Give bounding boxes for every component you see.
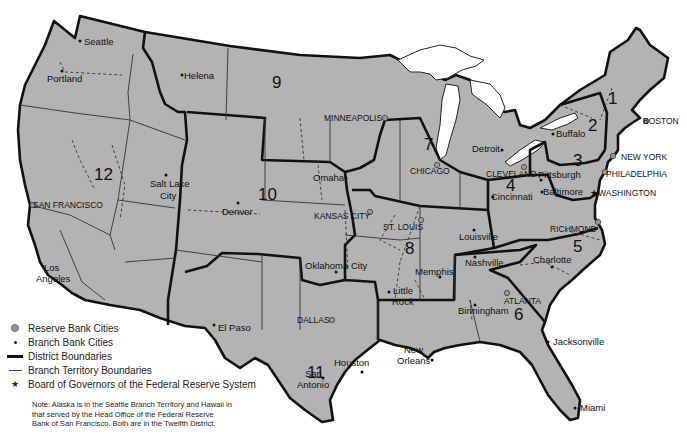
- legend-item-branch-bank-cities: Branch Bank Cities: [6, 335, 306, 349]
- city-chicago: CHICAGO: [410, 166, 450, 176]
- city-buffalo: Buffalo: [556, 128, 585, 139]
- city-little-rock-line2: Rock: [392, 296, 414, 307]
- legend-label: Branch Bank Cities: [28, 337, 113, 348]
- city-pittsburgh: Pittsburgh: [538, 169, 581, 180]
- branch-territory-boundary-icon: [6, 370, 24, 371]
- legend-label: Branch Territory Boundaries: [28, 365, 152, 376]
- city-salt-lake-city-line2: City: [160, 190, 177, 201]
- city-boston: BOSTON: [643, 116, 679, 126]
- city-helena: Helena: [184, 70, 215, 81]
- city-los-angeles-line1: Los: [44, 262, 60, 273]
- district-number-1: 1: [608, 89, 617, 108]
- city-seattle: Seattle: [84, 36, 114, 47]
- city-houston: Houston: [334, 357, 369, 368]
- board-of-governors-marker: ★ WASHINGTON: [590, 188, 656, 198]
- legend-label: District Boundaries: [28, 351, 112, 362]
- city-louisville: Louisville: [459, 231, 498, 242]
- city-st-louis: ST. LOUIS: [383, 222, 423, 232]
- star-icon: ★: [6, 380, 24, 389]
- city-detroit: Detroit: [472, 143, 500, 154]
- map-legend: Reserve Bank Cities Branch Bank Cities D…: [6, 321, 306, 391]
- district-number-9: 9: [272, 73, 281, 92]
- district-number-10: 10: [258, 185, 277, 204]
- city-new-york: NEW YORK: [621, 152, 667, 162]
- district-number-5: 5: [573, 237, 582, 256]
- city-charlotte: Charlotte: [533, 254, 572, 265]
- district-number-7: 7: [424, 135, 433, 154]
- district-number-3: 3: [573, 151, 582, 170]
- city-san-francisco: SAN FRANCISCO: [33, 200, 103, 210]
- reserve-bank-city-icon: [6, 324, 24, 332]
- district-number-2: 2: [588, 116, 597, 135]
- city-cincinnati: Cincinnati: [491, 191, 533, 202]
- city-baltimore: Baltimore: [543, 186, 583, 197]
- city-denver: Denver: [222, 206, 253, 217]
- city-san-antonio-line1: San: [305, 368, 322, 379]
- city-nashville: Nashville: [465, 257, 504, 268]
- city-kansas-city: KANSAS CITY: [314, 211, 371, 221]
- city-little-rock-line1: Little: [393, 285, 413, 296]
- city-cleveland: CLEVELAND: [486, 169, 537, 179]
- city-salt-lake-city-line1: Salt Lake: [150, 178, 190, 189]
- city-omaha: Omaha: [313, 172, 345, 183]
- city-jacksonville: Jacksonville: [553, 336, 604, 347]
- city-birmingham: Birmingham: [458, 305, 509, 316]
- legend-item-board-of-governors: ★ Board of Governors of the Federal Rese…: [6, 377, 306, 391]
- city-portland: Portland: [47, 73, 82, 84]
- city-minneapolis: MINNEAPOLIS: [324, 113, 382, 123]
- city-atlanta: ATLANTA: [504, 296, 541, 306]
- district-number-12: 12: [94, 165, 113, 184]
- city-new-orleans-line2: Orleans: [397, 355, 431, 366]
- legend-item-branch-territory-boundaries: Branch Territory Boundaries: [6, 363, 306, 377]
- city-little-rock: Little Rock: [392, 285, 416, 307]
- legend-label: Board of Governors of the Federal Reserv…: [28, 379, 256, 390]
- city-richmond: RICHMOND: [550, 224, 597, 234]
- branch-bank-city-icon: [6, 341, 24, 344]
- city-miami: Miami: [580, 402, 605, 413]
- city-memphis: Memphis: [415, 266, 454, 277]
- star-icon: ★: [590, 188, 598, 198]
- city-new-orleans-line1: New: [404, 344, 423, 355]
- legend-item-reserve-bank-cities: Reserve Bank Cities: [6, 321, 306, 335]
- district-boundary-icon: [6, 355, 24, 358]
- city-washington: WASHINGTON: [598, 188, 656, 198]
- legend-label: Reserve Bank Cities: [28, 323, 119, 334]
- district-number-8: 8: [405, 239, 414, 258]
- alaska-hawaii-note: Note: Alaska is in the Seattle Branch Te…: [32, 400, 232, 429]
- city-philadelphia: PHILADELPHIA: [606, 169, 667, 179]
- district-number-6: 6: [514, 305, 523, 324]
- city-los-angeles-line2: Angeles: [36, 273, 71, 284]
- city-oklahoma-city: Oklahoma City: [305, 260, 368, 271]
- legend-item-district-boundaries: District Boundaries: [6, 349, 306, 363]
